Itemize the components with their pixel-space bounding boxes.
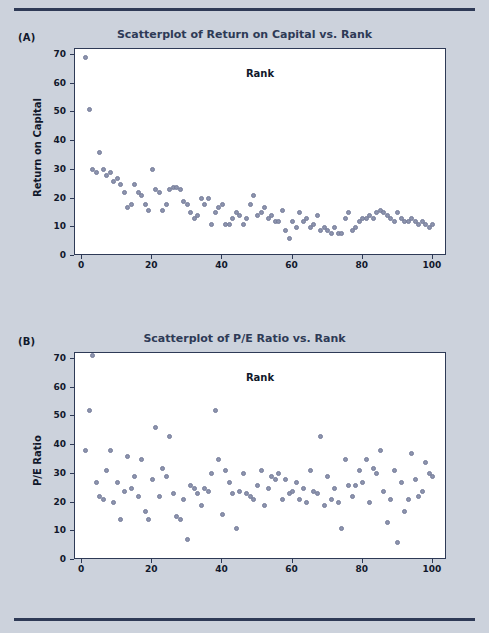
x-tick-mark <box>292 559 293 563</box>
bottom-rule <box>14 618 475 621</box>
x-tick-label: 80 <box>356 564 369 574</box>
y-tick-mark <box>70 358 74 359</box>
x-tick-label: 100 <box>423 564 442 574</box>
x-tick-label: 20 <box>145 260 158 270</box>
y-tick-mark <box>70 54 74 55</box>
panel-b-y-axis-label: P/E Ratio <box>32 435 43 486</box>
y-tick-mark <box>70 198 74 199</box>
y-tick-label: 70 <box>44 49 66 59</box>
y-tick-mark <box>70 111 74 112</box>
panel-b-x-axis: 020406080100 <box>74 559 446 577</box>
panel-b-plot: 010203040506070 020406080100 Rank <box>74 352 446 559</box>
x-tick-label: 100 <box>423 260 442 270</box>
x-tick-mark <box>81 255 82 259</box>
panel-a: (A) Scatterplot of Return on Capital vs.… <box>14 22 475 304</box>
x-tick-mark <box>221 559 222 563</box>
x-tick-label: 20 <box>145 564 158 574</box>
y-tick-mark <box>70 415 74 416</box>
panel-a-y-axis-label: Return on Capital <box>32 98 43 197</box>
panel-a-plot: 010203040506070 020406080100 Rank <box>74 48 446 255</box>
y-tick-label: 0 <box>44 554 66 564</box>
y-tick-label: 20 <box>44 497 66 507</box>
y-tick-label: 0 <box>44 250 66 260</box>
y-tick-mark <box>70 502 74 503</box>
panel-b-y-axis: 010203040506070 <box>74 352 446 559</box>
y-tick-label: 30 <box>44 468 66 478</box>
x-tick-mark <box>362 255 363 259</box>
y-tick-label: 60 <box>44 78 66 88</box>
y-tick-label: 50 <box>44 410 66 420</box>
y-tick-mark <box>70 387 74 388</box>
x-tick-label: 60 <box>285 260 298 270</box>
y-tick-mark <box>70 83 74 84</box>
x-tick-mark <box>151 559 152 563</box>
y-tick-label: 10 <box>44 525 66 535</box>
y-tick-label: 10 <box>44 221 66 231</box>
panel-a-x-axis-label: Rank <box>74 68 446 79</box>
y-tick-mark <box>70 140 74 141</box>
x-tick-label: 0 <box>78 564 84 574</box>
x-tick-label: 40 <box>215 564 228 574</box>
y-tick-mark <box>70 226 74 227</box>
x-tick-mark <box>432 559 433 563</box>
panel-a-title: Scatterplot of Return on Capital vs. Ran… <box>14 28 475 41</box>
y-tick-label: 20 <box>44 193 66 203</box>
x-tick-label: 40 <box>215 260 228 270</box>
x-tick-mark <box>362 559 363 563</box>
x-tick-mark <box>292 255 293 259</box>
y-tick-mark <box>70 169 74 170</box>
x-tick-label: 60 <box>285 564 298 574</box>
x-tick-label: 80 <box>356 260 369 270</box>
panel-b: (B) Scatterplot of P/E Ratio vs. Rank P/… <box>14 326 475 608</box>
x-tick-mark <box>81 559 82 563</box>
panel-a-y-axis: 010203040506070 <box>74 48 446 255</box>
x-tick-mark <box>221 255 222 259</box>
y-tick-mark <box>70 473 74 474</box>
y-tick-label: 40 <box>44 439 66 449</box>
x-tick-label: 0 <box>78 260 84 270</box>
y-tick-label: 30 <box>44 164 66 174</box>
y-tick-label: 60 <box>44 382 66 392</box>
panel-b-title: Scatterplot of P/E Ratio vs. Rank <box>14 332 475 345</box>
figure-page: (A) Scatterplot of Return on Capital vs.… <box>0 0 489 633</box>
y-tick-label: 40 <box>44 135 66 145</box>
x-tick-mark <box>432 255 433 259</box>
y-tick-mark <box>70 444 74 445</box>
panel-a-x-axis: 020406080100 <box>74 255 446 273</box>
top-rule <box>14 8 475 11</box>
y-tick-mark <box>70 530 74 531</box>
x-tick-mark <box>151 255 152 259</box>
y-tick-label: 70 <box>44 353 66 363</box>
y-tick-label: 50 <box>44 106 66 116</box>
panel-b-x-axis-label: Rank <box>74 372 446 383</box>
